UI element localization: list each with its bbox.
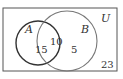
region-outside: 23 bbox=[101, 59, 114, 70]
region-a-and-b: 10 bbox=[50, 36, 63, 47]
set-b-label: B bbox=[80, 23, 89, 36]
set-a-label: A bbox=[24, 23, 33, 36]
universe-label: U bbox=[101, 12, 111, 25]
region-b-only: 5 bbox=[71, 44, 77, 55]
venn-diagram: U A B 15 10 5 23 bbox=[0, 0, 123, 79]
region-a-only: 15 bbox=[35, 44, 48, 55]
